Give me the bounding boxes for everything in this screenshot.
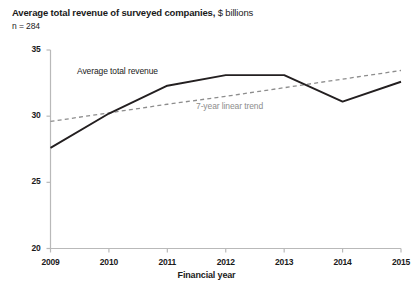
x-axis-tick-label: 2011 xyxy=(147,257,187,267)
series-annotation-revenue: Average total revenue xyxy=(77,66,158,76)
x-axis-tick-label: 2013 xyxy=(264,257,304,267)
x-axis-tick-label: 2009 xyxy=(31,257,71,267)
x-axis-tick-label: 2010 xyxy=(89,257,129,267)
revenue-line-path xyxy=(51,75,402,148)
y-axis-tick-label: 25 xyxy=(15,176,41,186)
x-axis-title: Financial year xyxy=(0,270,413,280)
chart-svg xyxy=(0,0,413,289)
axes-group xyxy=(47,50,402,253)
y-axis-tick-label: 20 xyxy=(15,243,41,253)
y-axis-tick-label: 35 xyxy=(15,44,41,54)
y-axis-tick-label: 30 xyxy=(15,110,41,120)
x-axis-ticks xyxy=(51,249,402,253)
x-axis-tick-label: 2012 xyxy=(206,257,246,267)
chart-figure: Average total revenue of surveyed compan… xyxy=(0,0,413,289)
series-annotation-trend: 7-year linear trend xyxy=(196,101,263,111)
plot-area: 20253035 2009201020112012201320142015 Av… xyxy=(0,0,413,289)
trend-line-path xyxy=(51,71,402,122)
x-axis-tick-label: 2014 xyxy=(323,257,363,267)
x-axis-tick-label: 2015 xyxy=(381,257,413,267)
